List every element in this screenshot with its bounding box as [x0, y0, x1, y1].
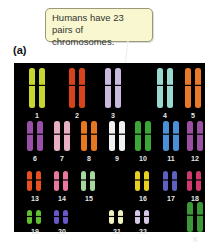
- chromosome-number-label: 12: [185, 155, 205, 162]
- chromatid: [109, 121, 115, 151]
- chromatid: [36, 171, 41, 191]
- chromatid: [173, 121, 179, 151]
- chromosome-pair-21: [106, 209, 128, 229]
- centromere: [167, 85, 173, 86]
- chromosome-number-label: 19: [25, 228, 45, 235]
- centromere: [135, 134, 141, 135]
- centromere: [157, 85, 163, 86]
- centromere: [91, 134, 97, 135]
- chromosome-pair-12: [184, 120, 206, 156]
- chromatid: [197, 202, 203, 232]
- chromosome-pair-4: [154, 67, 176, 113]
- centromere: [105, 85, 111, 86]
- chromatid: [69, 68, 75, 108]
- chromosome-pair-15: [78, 170, 100, 196]
- chromosome-number-label: 3: [103, 112, 123, 119]
- centromere: [144, 179, 149, 180]
- chromatid: [27, 121, 33, 151]
- centromere: [36, 216, 41, 217]
- chromosome-number-label: 6: [25, 155, 45, 162]
- chromosome-pair-x: [184, 201, 206, 237]
- centromere: [81, 179, 86, 180]
- centromere: [196, 179, 201, 180]
- chromosome-number-label: 7: [52, 155, 72, 162]
- chromosome-pair-9: [106, 120, 128, 156]
- centromere: [135, 216, 140, 217]
- chromosome-number-label: 15: [79, 195, 99, 202]
- chromosome-pair-22: [132, 209, 154, 229]
- chromatid: [39, 68, 45, 108]
- centromere: [187, 134, 193, 135]
- chromatid: [90, 171, 95, 191]
- centromere: [109, 134, 115, 135]
- chromosome-number-label: 22: [133, 228, 153, 235]
- chromatid: [54, 121, 60, 151]
- chromatid: [81, 171, 86, 191]
- chromatid: [63, 171, 68, 191]
- centromere: [163, 179, 168, 180]
- chromatid: [27, 171, 32, 191]
- chromosome-pair-16: [132, 170, 154, 196]
- centromere: [90, 179, 95, 180]
- chromosome-pair-8: [78, 120, 100, 156]
- chromatid: [81, 121, 87, 151]
- chromatid: [135, 171, 140, 191]
- chromosome-number-label: 5: [183, 112, 203, 119]
- chromatid: [172, 171, 177, 191]
- chromosome-pair-6: [24, 120, 46, 156]
- centromere: [27, 216, 32, 217]
- chromatid: [196, 171, 201, 191]
- chromosome-pair-13: [24, 170, 46, 196]
- chromatid: [187, 121, 193, 151]
- chromosome-number-label: 16: [133, 195, 153, 202]
- chromatid: [29, 68, 35, 108]
- centromere: [145, 134, 151, 135]
- chromatid: [54, 171, 59, 191]
- chromatid: [135, 121, 141, 151]
- centromere: [64, 134, 70, 135]
- centromere: [195, 85, 201, 86]
- centromere: [37, 134, 43, 135]
- centromere: [185, 85, 191, 86]
- centromere: [81, 134, 87, 135]
- chromosome-number-label: X: [185, 236, 205, 243]
- chromatid: [91, 121, 97, 151]
- chromosome-pair-7: [51, 120, 73, 156]
- chromatid: [144, 171, 149, 191]
- chromosome-pair-1: [26, 67, 48, 113]
- centromere: [197, 215, 203, 216]
- centromere: [119, 134, 125, 135]
- centromere: [63, 216, 68, 217]
- chromatid: [185, 68, 191, 108]
- centromere: [29, 85, 35, 86]
- centromere: [173, 134, 179, 135]
- centromere: [197, 134, 203, 135]
- chromosome-number-label: 11: [161, 155, 181, 162]
- chromosome-number-label: 20: [52, 228, 72, 235]
- centromere: [187, 179, 192, 180]
- chromatid: [37, 121, 43, 151]
- centromere: [79, 85, 85, 86]
- chromosome-pair-11: [160, 120, 182, 156]
- chromatid: [187, 171, 192, 191]
- centromere: [69, 85, 75, 86]
- chromatid: [145, 121, 151, 151]
- centromere: [118, 216, 123, 217]
- chromosome-number-label: 21: [107, 228, 127, 235]
- chromatid: [79, 68, 85, 108]
- centromere: [109, 216, 114, 217]
- chromosome-pair-10: [132, 120, 154, 156]
- chromatid: [163, 171, 168, 191]
- chromosome-number-label: 8: [79, 155, 99, 162]
- chromatid: [187, 202, 193, 232]
- chromosome-number-label: 4: [155, 112, 175, 119]
- chromatid: [157, 68, 163, 108]
- chromosome-pair-19: [24, 209, 46, 229]
- chromosome-number-label: 13: [25, 195, 45, 202]
- chromosome-pair-20: [51, 209, 73, 229]
- chromosome-pair-17: [160, 170, 182, 196]
- chromosome-number-label: 10: [133, 155, 153, 162]
- centromere: [27, 179, 32, 180]
- centromere: [54, 134, 60, 135]
- chromosome-pair-5: [182, 67, 204, 113]
